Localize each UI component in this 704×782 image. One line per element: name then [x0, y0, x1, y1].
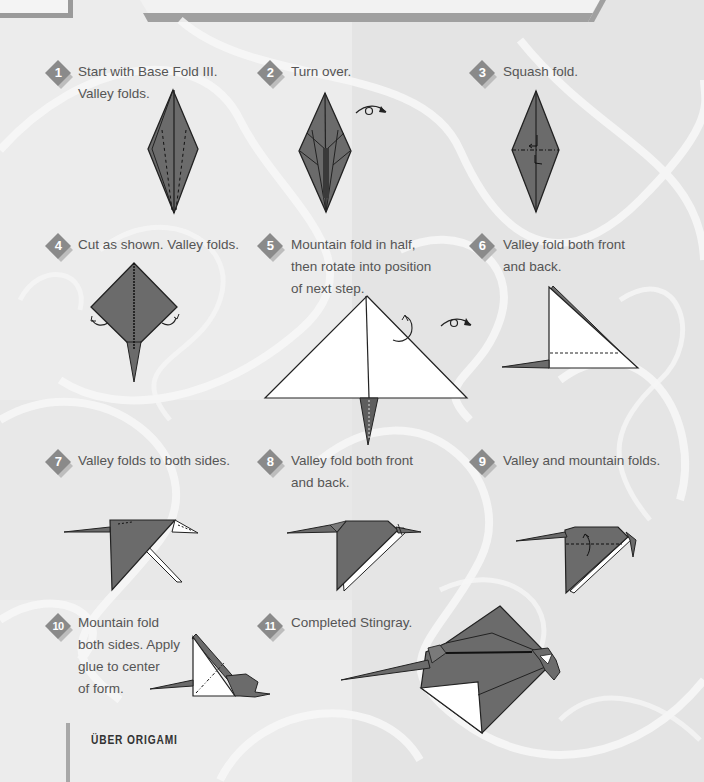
footer-book-title: ÜBER ORIGAMI: [91, 733, 178, 747]
completed-stingray-diagram: [0, 0, 704, 782]
